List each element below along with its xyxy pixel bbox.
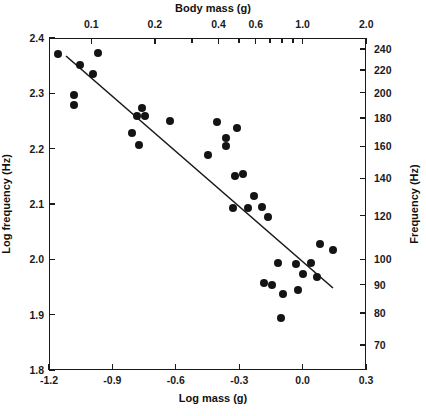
data-point <box>89 70 97 78</box>
data-point <box>274 259 282 267</box>
left-tick <box>49 203 55 204</box>
data-point <box>138 104 146 112</box>
data-point <box>76 61 84 69</box>
data-point <box>141 112 149 120</box>
top-tick <box>255 38 256 44</box>
data-point <box>260 279 268 287</box>
data-point <box>268 281 276 289</box>
top-minor-tick <box>191 38 192 43</box>
left-tick-label: 2.2 <box>12 143 44 155</box>
right-tick <box>360 284 366 285</box>
right-tick <box>360 92 366 93</box>
data-point <box>222 142 230 150</box>
data-point <box>229 204 237 212</box>
top-minor-tick <box>238 38 239 43</box>
data-point <box>316 240 324 248</box>
top-minor-tick <box>269 38 270 43</box>
right-tick-label: 120 <box>374 210 392 222</box>
right-tick <box>360 117 366 118</box>
left-tick <box>49 369 55 370</box>
data-point <box>166 117 174 125</box>
bottom-tick <box>365 364 366 370</box>
left-tick-label: 2.3 <box>12 87 44 99</box>
bottom-tick <box>302 364 303 370</box>
data-point <box>294 286 302 294</box>
top-tick <box>302 38 303 44</box>
top-tick-label: 0.4 <box>211 18 226 30</box>
right-tick-label: 140 <box>374 172 392 184</box>
left-tick-label: 2.0 <box>12 253 44 265</box>
data-point <box>70 91 78 99</box>
data-point <box>277 314 285 322</box>
data-point <box>250 192 258 200</box>
right-tick-label: 200 <box>374 87 392 99</box>
top-axis-title: Body mass (g) <box>175 2 251 14</box>
bottom-axis-title: Log mass (g) <box>179 392 247 404</box>
right-tick <box>360 69 366 70</box>
data-point <box>258 203 266 211</box>
data-point <box>244 204 252 212</box>
bottom-tick-label: -0.3 <box>230 374 248 386</box>
right-tick <box>360 259 366 260</box>
data-point <box>264 213 272 221</box>
left-tick-label: 1.8 <box>12 364 44 376</box>
top-tick-label: 0.1 <box>84 18 99 30</box>
top-tick-label: 0.2 <box>148 18 163 30</box>
data-point <box>94 49 102 57</box>
left-tick-label: 2.4 <box>12 32 44 44</box>
right-tick-label: 180 <box>374 112 392 124</box>
right-tick-label: 160 <box>374 140 392 152</box>
bottom-tick-label: -0.9 <box>103 374 121 386</box>
bottom-tick <box>239 364 240 370</box>
right-tick-label: 100 <box>374 253 392 265</box>
right-tick-label: 80 <box>374 307 386 319</box>
left-axis-title: Log frequency (Hz) <box>0 154 12 254</box>
top-tick <box>154 38 155 44</box>
right-tick-label: 240 <box>374 43 392 55</box>
top-tick-label: 1.0 <box>295 18 310 30</box>
right-axis-title: Frequency (Hz) <box>408 164 420 243</box>
top-tick <box>218 38 219 44</box>
data-point <box>204 151 212 159</box>
data-point <box>133 112 141 120</box>
top-tick-label: 0.6 <box>248 18 263 30</box>
right-tick <box>360 48 366 49</box>
data-point <box>222 134 230 142</box>
data-point <box>231 172 239 180</box>
top-tick-label: 2.0 <box>359 18 374 30</box>
data-point <box>279 290 287 298</box>
right-tick <box>360 344 366 345</box>
left-tick-label: 1.9 <box>12 309 44 321</box>
plot-area <box>49 38 366 370</box>
data-point <box>54 50 62 58</box>
data-point <box>292 260 300 268</box>
right-tick <box>360 215 366 216</box>
left-tick <box>49 37 55 38</box>
top-minor-tick <box>281 38 282 43</box>
data-point <box>307 259 315 267</box>
right-tick <box>360 178 366 179</box>
left-tick <box>49 259 55 260</box>
data-point <box>329 246 337 254</box>
right-tick <box>360 312 366 313</box>
right-tick-label: 70 <box>374 339 386 351</box>
data-point <box>239 170 247 178</box>
right-tick <box>360 146 366 147</box>
top-tick <box>366 38 367 44</box>
right-tick-label: 220 <box>374 64 392 76</box>
data-point <box>299 270 307 278</box>
left-tick <box>49 93 55 94</box>
bottom-tick-label: -0.6 <box>167 374 185 386</box>
scatter-plot-figure: Body mass (g) Log mass (g) Log frequency… <box>0 0 426 416</box>
bottom-tick <box>175 364 176 370</box>
top-minor-tick <box>292 38 293 43</box>
bottom-tick-label: 0.0 <box>295 374 310 386</box>
data-point <box>70 101 78 109</box>
data-point <box>135 141 143 149</box>
left-tick-label: 2.1 <box>12 198 44 210</box>
data-point <box>213 118 221 126</box>
data-point <box>313 273 321 281</box>
left-tick <box>49 148 55 149</box>
left-tick <box>49 314 55 315</box>
data-point <box>128 129 136 137</box>
